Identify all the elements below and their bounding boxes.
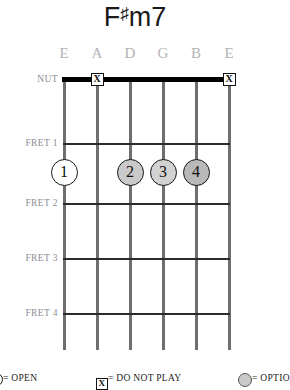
fret-label-fret-2: FRET 2: [6, 198, 58, 208]
legend-item-open: = OPEN: [0, 373, 37, 386]
guitar-string-3: [129, 79, 132, 350]
legend-label: = OPTIO: [252, 373, 290, 383]
legend: = OPENX = DO NOT PLAY = OPTIO: [0, 373, 270, 389]
legend-item-optional: = OPTIO: [238, 373, 290, 387]
guitar-string-2: [96, 79, 99, 350]
legend-item-mute: X = DO NOT PLAY: [96, 373, 181, 390]
fret-label-fret-1: FRET 1: [6, 138, 58, 148]
finger-dot-4: 4: [183, 159, 210, 186]
legend-label: = DO NOT PLAY: [108, 373, 181, 383]
mute-box-x-icon: X: [96, 378, 108, 390]
guitar-string-4: [162, 79, 165, 350]
legend-label: = OPEN: [3, 373, 37, 383]
nut-line: [62, 77, 232, 82]
fret-line-1: [63, 143, 230, 145]
string-label-4: G: [151, 45, 175, 62]
optional-circle-icon: [238, 373, 252, 387]
string-label-5: B: [184, 45, 208, 62]
guitar-string-5: [195, 79, 198, 350]
finger-dot-3: 3: [150, 159, 177, 186]
mute-marker-string-2: X: [91, 73, 104, 86]
string-label-1: E: [52, 45, 76, 62]
fret-line-2: [63, 203, 230, 205]
fret-label-nut: NUT: [6, 74, 58, 84]
chord-root: F: [104, 2, 121, 32]
fret-label-fret-4: FRET 4: [6, 308, 58, 318]
chord-quality: m7: [129, 2, 167, 32]
guitar-string-1: [63, 79, 66, 350]
guitar-string-6: [228, 79, 231, 350]
chord-title: F♯m7: [0, 2, 270, 33]
fret-line-4: [63, 313, 230, 315]
string-label-6: E: [217, 45, 241, 62]
sharp-symbol-icon: ♯: [120, 4, 129, 23]
fret-line-3: [63, 258, 230, 260]
string-label-2: A: [85, 45, 109, 62]
fret-label-fret-3: FRET 3: [6, 253, 58, 263]
mute-marker-string-6: X: [223, 73, 236, 86]
finger-dot-2: 2: [117, 159, 144, 186]
string-label-3: D: [118, 45, 142, 62]
finger-dot-1: 1: [51, 159, 78, 186]
